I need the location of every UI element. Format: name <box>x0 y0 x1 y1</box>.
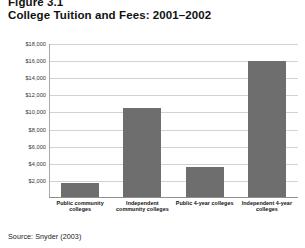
y-axis-tick-label: $12,000 <box>2 92 46 98</box>
page-title: College Tuition and Fees: 2001–2002 <box>8 9 298 22</box>
y-axis-tick-label: $2,000 <box>2 178 46 184</box>
y-axis-tick-label: $8,000 <box>2 127 46 133</box>
gridline <box>49 44 298 45</box>
y-axis-tick-label: $16,000 <box>2 58 46 64</box>
figure-header: Figure 3.1 College Tuition and Fees: 200… <box>8 0 298 22</box>
bar-chart: $2,000$4,000$6,000$8,000$10,000$12,000$1… <box>0 36 305 226</box>
y-axis-line <box>49 44 50 198</box>
plot-area <box>49 44 298 198</box>
y-axis-tick-label: $6,000 <box>2 144 46 150</box>
bar <box>123 108 161 198</box>
source-note: Source: Snyder (2003) <box>8 232 81 241</box>
x-axis-category-label: Independent community colleges <box>111 200 173 213</box>
x-axis-category-label: Public community colleges <box>49 200 111 213</box>
x-axis-category-label: Public 4-year colleges <box>174 200 236 206</box>
y-axis-tick-label: $14,000 <box>2 75 46 81</box>
bar <box>186 167 224 198</box>
x-axis-line <box>49 197 298 198</box>
y-axis-tick-label: $10,000 <box>2 109 46 115</box>
y-axis-tick-label: $18,000 <box>2 41 46 47</box>
bar <box>248 61 286 198</box>
figure-number: Figure 3.1 <box>8 0 298 8</box>
bar <box>61 183 99 198</box>
x-axis-category-label: Independent 4-year colleges <box>236 200 298 213</box>
x-axis-category-labels: Public community collegesIndependent com… <box>49 200 298 230</box>
y-axis-tick-labels: $2,000$4,000$6,000$8,000$10,000$12,000$1… <box>0 44 46 198</box>
y-axis-tick-label: $4,000 <box>2 161 46 167</box>
